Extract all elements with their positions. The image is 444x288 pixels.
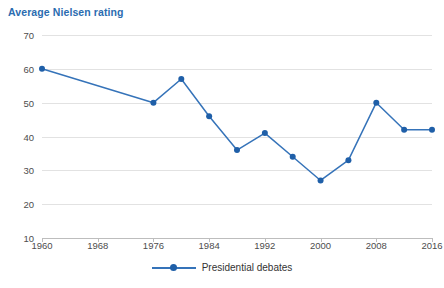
series-group	[42, 35, 432, 238]
x-tick-mark	[265, 238, 266, 242]
chart-legend: Presidential debates	[0, 262, 444, 273]
chart-title: Average Nielsen rating	[8, 6, 124, 18]
legend-marker-icon	[170, 264, 177, 271]
x-tick-mark	[432, 238, 433, 242]
x-tick-mark	[321, 238, 322, 242]
data-point[interactable]	[262, 130, 268, 136]
chart-container: Average Nielsen rating 70605040302010 19…	[0, 0, 444, 288]
plot-area	[42, 35, 432, 238]
y-tick-label: 40	[8, 131, 34, 142]
x-tick-mark	[209, 238, 210, 242]
data-point[interactable]	[39, 66, 45, 72]
data-point[interactable]	[290, 154, 296, 160]
y-tick-label: 60	[8, 63, 34, 74]
y-tick-label: 50	[8, 97, 34, 108]
series-markers-presidential-debates	[39, 66, 435, 184]
data-point[interactable]	[373, 100, 379, 106]
y-tick-label: 70	[8, 30, 34, 41]
data-point[interactable]	[178, 76, 184, 82]
data-point[interactable]	[345, 157, 351, 163]
series-line-presidential-debates	[42, 69, 432, 181]
legend-label-presidential-debates: Presidential debates	[202, 262, 293, 273]
y-tick-label: 30	[8, 165, 34, 176]
y-tick-label: 10	[8, 233, 34, 244]
y-tick-label: 20	[8, 199, 34, 210]
data-point[interactable]	[401, 127, 407, 133]
x-tick-mark	[42, 238, 43, 242]
data-point[interactable]	[318, 177, 324, 183]
x-tick-mark	[376, 238, 377, 242]
data-point[interactable]	[234, 147, 240, 153]
legend-swatch-presidential-debates	[152, 263, 196, 273]
data-point[interactable]	[206, 113, 212, 119]
data-point[interactable]	[150, 100, 156, 106]
data-point[interactable]	[429, 127, 435, 133]
x-axis-line	[42, 238, 432, 239]
x-axis-labels: 19601968197619841992200020082016	[0, 240, 444, 256]
x-tick-mark	[153, 238, 154, 242]
x-tick-mark	[98, 238, 99, 242]
